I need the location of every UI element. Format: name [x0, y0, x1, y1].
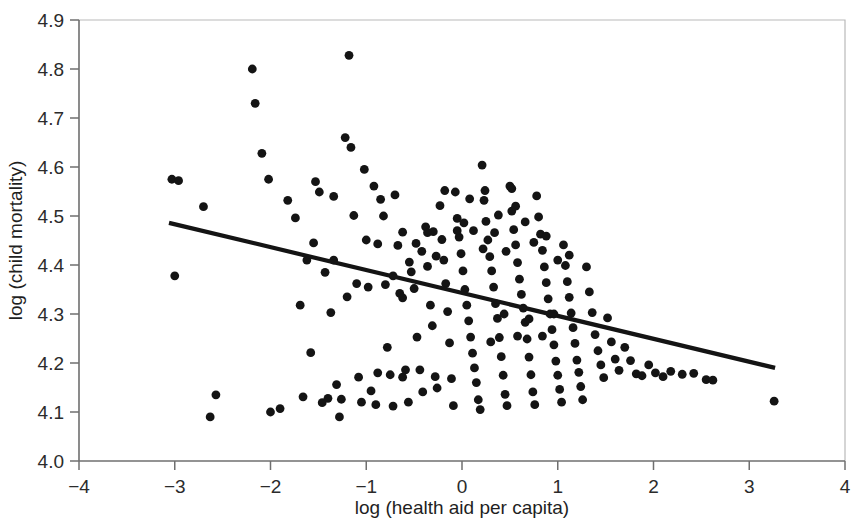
- data-point: [466, 333, 475, 342]
- data-point: [569, 323, 578, 332]
- data-point: [525, 315, 534, 324]
- data-point: [486, 338, 495, 347]
- scatter-plot-figure: −4−3−2−101234 4.04.14.24.34.44.54.64.74.…: [0, 0, 851, 524]
- data-point: [251, 99, 260, 108]
- data-point: [432, 252, 441, 261]
- x-tick-label: 2: [648, 476, 659, 497]
- data-point: [503, 401, 512, 410]
- data-point: [354, 373, 363, 382]
- data-point: [513, 332, 522, 341]
- data-point: [596, 361, 605, 370]
- data-point: [315, 188, 324, 197]
- data-point: [585, 288, 594, 297]
- data-point: [574, 368, 583, 377]
- data-point: [451, 188, 460, 197]
- data-point: [511, 202, 520, 211]
- data-point: [170, 271, 179, 280]
- data-point: [347, 143, 356, 152]
- data-point: [412, 239, 421, 248]
- data-point: [511, 241, 520, 250]
- data-point: [453, 226, 462, 235]
- data-point: [626, 356, 635, 365]
- data-point: [264, 175, 273, 184]
- data-point: [426, 301, 435, 310]
- data-point: [521, 217, 530, 226]
- data-point: [770, 397, 779, 406]
- fit-line: [169, 223, 775, 368]
- data-point: [329, 192, 338, 201]
- y-tick-label: 4.8: [38, 59, 64, 80]
- data-point: [373, 240, 382, 249]
- data-point: [532, 192, 541, 201]
- data-point: [515, 275, 524, 284]
- data-point: [306, 348, 315, 357]
- data-point: [534, 213, 543, 222]
- data-point: [391, 191, 400, 200]
- data-point: [490, 228, 499, 237]
- data-point: [529, 238, 538, 247]
- data-point: [527, 370, 536, 379]
- data-point: [321, 268, 330, 277]
- axis-lines: [79, 20, 845, 461]
- data-point: [379, 212, 388, 221]
- data-point: [449, 401, 458, 410]
- data-point: [370, 182, 379, 191]
- data-point: [553, 256, 562, 265]
- x-tick-label: −3: [164, 476, 186, 497]
- data-point: [513, 258, 522, 267]
- data-point: [381, 280, 390, 289]
- data-point: [423, 228, 432, 237]
- data-point: [345, 51, 354, 60]
- x-tick-label: 4: [840, 476, 851, 497]
- data-point: [550, 340, 559, 349]
- data-point: [428, 321, 437, 330]
- data-point: [571, 339, 580, 348]
- data-point: [349, 211, 358, 220]
- data-point: [447, 374, 456, 383]
- data-point: [480, 196, 489, 205]
- data-point: [436, 201, 445, 210]
- data-point: [291, 214, 300, 223]
- data-point: [544, 294, 553, 303]
- data-point: [248, 65, 257, 74]
- data-point: [542, 278, 551, 287]
- data-point: [257, 149, 266, 158]
- plot-box-border: [79, 20, 845, 461]
- data-point: [538, 246, 547, 255]
- data-point: [551, 357, 560, 366]
- data-point: [457, 249, 466, 258]
- chart-canvas: −4−3−2−101234 4.04.14.24.34.44.54.64.74.…: [0, 0, 851, 524]
- x-tick-label: −1: [355, 476, 377, 497]
- data-point: [576, 382, 585, 391]
- data-point: [565, 293, 574, 302]
- data-point: [591, 330, 600, 339]
- data-point: [332, 380, 341, 389]
- data-point: [174, 176, 183, 185]
- data-point: [199, 202, 208, 211]
- data-point: [495, 333, 504, 342]
- data-point: [582, 263, 591, 272]
- data-point: [502, 247, 511, 256]
- data-point: [666, 367, 675, 376]
- data-point: [499, 371, 508, 380]
- data-point: [479, 244, 488, 253]
- data-point: [599, 373, 608, 382]
- data-point: [389, 402, 398, 411]
- data-point: [525, 353, 534, 362]
- y-tick-label: 4.4: [38, 255, 65, 276]
- y-tick-label: 4.1: [38, 402, 64, 423]
- data-point: [509, 225, 518, 234]
- data-point: [439, 256, 448, 265]
- data-point: [573, 356, 582, 365]
- data-point: [212, 390, 221, 399]
- data-point: [405, 258, 414, 267]
- data-point: [611, 355, 620, 364]
- data-point: [481, 186, 490, 195]
- data-point: [474, 395, 483, 404]
- x-tick-label: −2: [260, 476, 282, 497]
- data-point: [362, 236, 371, 245]
- data-point: [413, 333, 422, 342]
- data-point: [440, 186, 449, 195]
- data-point: [464, 316, 473, 325]
- x-tick-label: −4: [68, 476, 90, 497]
